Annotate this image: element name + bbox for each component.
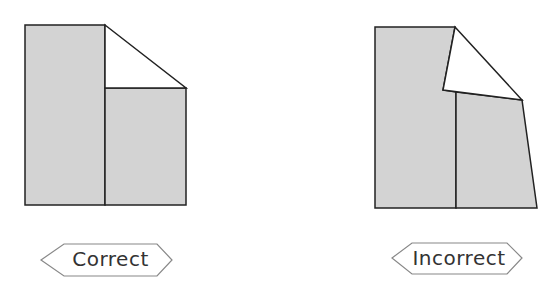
incorrect-label: Incorrect (404, 246, 514, 270)
correct-fold-figure (25, 25, 186, 205)
incorrect-fold-figure (375, 27, 537, 208)
correct-label: Correct (64, 247, 157, 271)
